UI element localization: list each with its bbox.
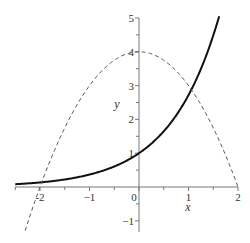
y-tick-label: 2 — [129, 113, 135, 125]
x-axis-label: x — [184, 200, 191, 214]
x-tick-label: -2 — [35, 191, 44, 203]
x-tick-label: −1 — [84, 191, 96, 203]
y-axis-label: y — [113, 97, 120, 111]
x-tick-label: 0 — [131, 191, 137, 203]
plot-area — [15, 16, 238, 230]
y-tick-label: 1 — [129, 147, 135, 159]
y-tick-label: −1 — [122, 215, 134, 227]
y-tick-label: 5 — [129, 12, 135, 24]
axes — [15, 18, 238, 232]
y-tick-label: 3 — [129, 80, 135, 92]
y-tick-label: 4 — [129, 46, 135, 58]
chart: -2−1012−112345xy — [0, 0, 250, 243]
x-tick-label: 2 — [235, 191, 241, 203]
